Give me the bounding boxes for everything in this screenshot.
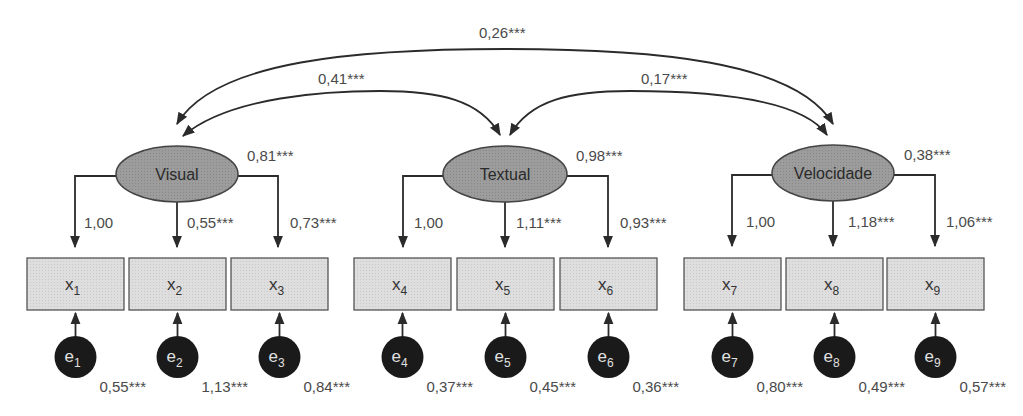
factor-label-velocidade: Velocidade <box>794 165 872 182</box>
covariance-label-visual-textual: 0,41*** <box>318 70 365 87</box>
indicator-x3: x3e30,84*** <box>231 258 350 395</box>
factor-variance-visual: 0,81*** <box>247 147 294 164</box>
error-variance-label: 0,55*** <box>100 378 147 395</box>
covariance-label-textual-velocidade: 0,17*** <box>641 70 688 87</box>
error-variance-label: 1,13*** <box>202 378 249 395</box>
factor-variance-velocidade: 0,38*** <box>904 146 951 163</box>
loading-path-x6 <box>567 176 608 247</box>
loading-label-x6: 0,93*** <box>620 214 667 231</box>
loading-path-x9 <box>894 175 935 246</box>
error-variance-label: 0,49*** <box>859 378 906 395</box>
loading-label-x1: 1,00 <box>84 214 113 231</box>
loading-path-x4 <box>403 176 444 247</box>
indicator-layer: x1e10,55***x2e21,13***x3e30,84***x4e40,3… <box>27 258 1006 395</box>
indicator-x5: x5e50,45*** <box>457 258 576 395</box>
loading-label-x7: 1,00 <box>746 213 775 230</box>
covariance-label-visual-velocidade: 0,26*** <box>479 24 526 41</box>
error-variance-label: 0,37*** <box>427 378 474 395</box>
factor-label-textual: Textual <box>480 166 531 183</box>
factor-variance-textual: 0,98*** <box>576 147 623 164</box>
error-variance-label: 0,57*** <box>960 378 1007 395</box>
covariance-arc-visual-velocidade <box>177 49 833 124</box>
error-variance-label: 0,80*** <box>757 378 804 395</box>
loading-path-x3 <box>237 176 278 247</box>
loading-label-x2: 0,55*** <box>187 214 234 231</box>
factor-velocidade: Velocidade 0,38*** 1,00 1,18*** 1,06*** <box>732 145 993 246</box>
factor-visual: Visual 0,81*** 1,00 0,55*** 0,73*** <box>75 146 337 247</box>
loading-label-x4: 1,00 <box>414 214 443 231</box>
indicator-x6: x6e60,36*** <box>560 258 679 395</box>
indicator-x9: x9e90,57*** <box>887 258 1006 395</box>
factor-label-visual: Visual <box>155 166 198 183</box>
loading-label-x9: 1,06*** <box>946 213 993 230</box>
loading-label-x3: 0,73*** <box>290 214 337 231</box>
covariance-arcs: 0,26*** 0,41*** 0,17*** <box>177 24 833 136</box>
covariance-arc-visual-textual <box>183 91 500 136</box>
error-variance-label: 0,84*** <box>304 378 351 395</box>
sem-diagram: 0,26*** 0,41*** 0,17*** Visual 0,81*** 1… <box>0 0 1023 416</box>
error-variance-label: 0,45*** <box>530 378 577 395</box>
covariance-arc-textual-velocidade <box>510 91 827 135</box>
indicator-x4: x4e40,37*** <box>354 258 473 395</box>
factor-textual: Textual 0,98*** 1,00 1,11*** 0,93*** <box>403 146 667 247</box>
error-variance-label: 0,36*** <box>633 378 680 395</box>
loading-path-x7 <box>732 175 773 246</box>
loading-label-x5: 1,11*** <box>516 214 562 231</box>
loading-label-x8: 1,18*** <box>848 213 895 230</box>
loading-path-x1 <box>75 176 117 247</box>
